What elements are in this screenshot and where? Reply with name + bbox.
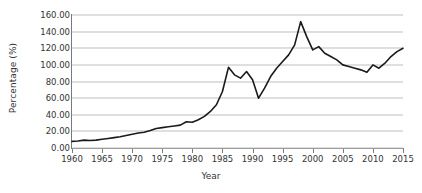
data-series-line bbox=[72, 15, 403, 148]
y-axis-tick-label: 140.00 bbox=[24, 27, 70, 37]
x-axis-tick-label: 1970 bbox=[121, 154, 143, 164]
y-axis-tick-label: 60.00 bbox=[24, 93, 70, 103]
x-axis-tick-label: 2005 bbox=[332, 154, 354, 164]
x-axis-tick-mark bbox=[253, 149, 254, 153]
x-axis-tick-mark bbox=[72, 149, 73, 153]
x-axis-title: Year bbox=[0, 171, 422, 181]
x-axis-tick-label: 2000 bbox=[302, 154, 324, 164]
y-axis-tick-label: 100.00 bbox=[24, 60, 70, 70]
x-axis-tick-mark bbox=[403, 149, 404, 153]
x-axis-tick-label: 1975 bbox=[151, 154, 173, 164]
y-axis-tick-label: 40.00 bbox=[24, 110, 70, 120]
x-axis-tick-label: 1985 bbox=[212, 154, 234, 164]
x-axis-tick-mark bbox=[132, 149, 133, 153]
y-axis-tick-label: 20.00 bbox=[24, 126, 70, 136]
x-axis-tick-mark bbox=[373, 149, 374, 153]
x-axis-tick-mark bbox=[192, 149, 193, 153]
y-axis-tick-label: 160.00 bbox=[24, 10, 70, 20]
x-axis-tick-label: 1995 bbox=[272, 154, 294, 164]
line-chart: Percentage (%) 0.0020.0040.0060.0080.001… bbox=[0, 0, 422, 193]
x-axis-tick-mark bbox=[313, 149, 314, 153]
x-axis-tick-mark bbox=[283, 149, 284, 153]
y-axis-ticks: 0.0020.0040.0060.0080.00100.00120.00140.… bbox=[20, 0, 70, 193]
x-axis-tick-label: 1965 bbox=[91, 154, 113, 164]
y-axis-tick-label: 0.00 bbox=[24, 143, 70, 153]
y-axis-tick-label: 80.00 bbox=[24, 77, 70, 87]
plot-area bbox=[72, 15, 403, 148]
x-axis-tick-mark bbox=[162, 149, 163, 153]
x-axis-tick-label: 1980 bbox=[182, 154, 204, 164]
y-axis-tick-label: 120.00 bbox=[24, 43, 70, 53]
x-axis-tick-label: 1990 bbox=[242, 154, 264, 164]
x-axis-tick-mark bbox=[222, 149, 223, 153]
x-axis-tick-label: 1960 bbox=[61, 154, 83, 164]
x-axis-tick-mark bbox=[343, 149, 344, 153]
x-axis-tick-label: 2010 bbox=[362, 154, 384, 164]
x-axis-tick-mark bbox=[102, 149, 103, 153]
x-axis-tick-label: 2015 bbox=[392, 154, 414, 164]
